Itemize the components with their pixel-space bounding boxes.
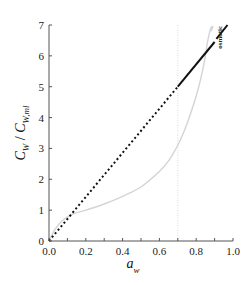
- x-tick-label: 1.0: [226, 245, 240, 257]
- y-tick-label: 5: [39, 81, 45, 93]
- plot-area: osmotic: [49, 25, 228, 241]
- y-tick-label: 2: [39, 173, 45, 185]
- x-tick-label: 0.8: [189, 245, 203, 257]
- y-tick-label: 3: [39, 142, 45, 154]
- x-axis: 0.00.20.40.60.81.0: [42, 238, 240, 257]
- x-axis-title: aw: [126, 256, 139, 275]
- x-tick-label: 0.0: [42, 245, 56, 257]
- chart: osmotic 01234567 0.00.20.40.60.81.0 CW /…: [0, 0, 252, 285]
- x-tick-label: 0.6: [153, 245, 167, 257]
- gray-curve: [49, 26, 213, 241]
- y-axis: 01234567: [39, 19, 53, 247]
- y-tick-label: 4: [39, 112, 45, 124]
- y-tick-label: 7: [39, 19, 45, 31]
- y-tick-label: 6: [39, 50, 45, 62]
- y-axis-title: CW / CW,ml: [13, 105, 31, 160]
- x-tick-label: 0.2: [79, 245, 93, 257]
- osmotic-line: [178, 42, 215, 87]
- dashed-line: [49, 87, 178, 241]
- y-tick-label: 1: [39, 204, 45, 216]
- osmotic-annotation: osmotic: [216, 26, 224, 49]
